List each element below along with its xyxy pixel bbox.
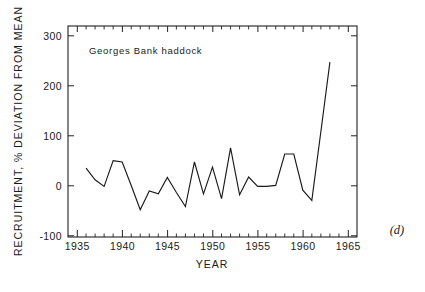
y-tick-label-300: 300: [43, 30, 62, 42]
x-axis-major-ticks: [77, 26, 348, 237]
x-tick-label-1960: 1960: [291, 240, 316, 252]
recruitment-series-line: [86, 62, 330, 210]
x-tick-label-1955: 1955: [245, 240, 270, 252]
y-tick-label-100: 100: [43, 130, 62, 142]
x-tick-label-1945: 1945: [155, 240, 180, 252]
figure-panel-d: 300 200 100 0 -100 1935 1940 1945 195: [0, 0, 425, 292]
x-tick-label-1950: 1950: [200, 240, 225, 252]
x-tick-label-1940: 1940: [110, 240, 135, 252]
y-axis-ticks: [68, 36, 357, 236]
y-tick-label-200: 200: [43, 80, 62, 92]
x-tick-label-1965: 1965: [336, 240, 361, 252]
y-tick-label-minus100: -100: [39, 230, 62, 242]
x-axis-title: YEAR: [196, 258, 229, 270]
panel-label: (d): [390, 223, 405, 237]
series-annotation: Georges Bank haddock: [89, 45, 202, 56]
y-axis-title: RECRUITMENT, % DEVIATION FROM MEAN: [12, 6, 24, 256]
recruitment-line-chart: 300 200 100 0 -100 1935 1940 1945 195: [0, 0, 425, 292]
x-axis-minor-ticks: [86, 26, 339, 237]
plot-frame: [68, 26, 357, 237]
y-tick-label-0: 0: [56, 180, 62, 192]
x-tick-label-1935: 1935: [65, 240, 90, 252]
